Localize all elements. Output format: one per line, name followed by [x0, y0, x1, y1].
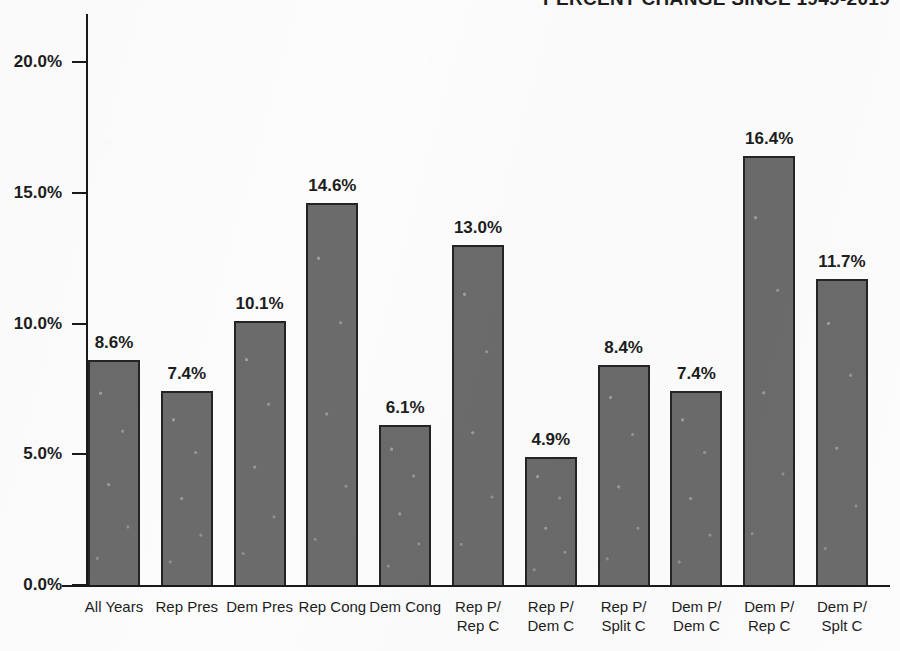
plot-area: 0.0%5.0%10.0%15.0%20.0% 8.6%7.4%10.1%14.… — [0, 0, 900, 651]
chart-title: PERCENT CHANGE SINCE 1949-2019 — [0, 0, 890, 8]
bar-value-label: 7.4% — [646, 364, 746, 384]
bar-texture — [454, 247, 502, 585]
bar — [816, 279, 868, 585]
bar-texture — [163, 393, 211, 585]
bar — [525, 457, 577, 585]
bar-texture — [90, 362, 138, 585]
bar-texture — [600, 367, 648, 585]
x-axis-line — [62, 585, 890, 587]
bar — [670, 391, 722, 585]
bar-value-label: 8.6% — [64, 333, 164, 353]
bar-texture — [672, 393, 720, 585]
bar — [452, 245, 504, 585]
bar — [598, 365, 650, 585]
bar-texture — [381, 427, 429, 585]
bar-texture — [308, 205, 356, 585]
bar — [88, 360, 140, 585]
y-axis-tick-mark — [72, 584, 86, 586]
x-axis-category-label: Dem P/Splt C — [794, 597, 890, 635]
bar-value-label: 16.4% — [719, 129, 819, 149]
bar-value-label: 4.9% — [501, 430, 601, 450]
bar-value-label: 13.0% — [428, 218, 528, 238]
bar-texture — [236, 323, 284, 585]
bar — [743, 156, 795, 585]
y-axis-tick-label: 5.0% — [0, 444, 62, 464]
y-axis-tick-label: 20.0% — [0, 52, 62, 72]
y-axis-tick-mark — [72, 323, 86, 325]
y-axis-tick-mark — [72, 61, 86, 63]
bar-texture — [745, 158, 793, 585]
bar-value-label: 11.7% — [792, 252, 892, 272]
bar-value-label: 6.1% — [355, 398, 455, 418]
y-axis-tick-mark — [72, 192, 86, 194]
y-axis-tick-label: 10.0% — [0, 314, 62, 334]
bar-texture — [818, 281, 866, 585]
bar-value-label: 7.4% — [137, 364, 237, 384]
bar-value-label: 8.4% — [574, 338, 674, 358]
bar-texture — [527, 459, 575, 585]
bar — [306, 203, 358, 585]
bar-value-label: 14.6% — [282, 176, 382, 196]
y-axis-tick-label: 0.0% — [0, 575, 62, 595]
y-axis-tick-label: 15.0% — [0, 183, 62, 203]
bar-value-label: 10.1% — [210, 294, 310, 314]
x-axis-category-label-line: Splt C — [794, 616, 890, 635]
bar-chart-figure: PERCENT CHANGE SINCE 1949-2019 0.0%5.0%1… — [0, 0, 900, 651]
bar — [379, 425, 431, 585]
bar — [234, 321, 286, 585]
bar — [161, 391, 213, 585]
x-axis-category-label-line: Dem P/ — [794, 597, 890, 616]
y-axis-tick-mark — [72, 453, 86, 455]
